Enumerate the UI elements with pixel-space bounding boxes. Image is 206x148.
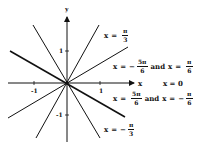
denominator: 3 [129,130,133,137]
label-eq: = [120,95,126,102]
denominator2: 6 [187,99,191,106]
label-eq: = [111,32,117,39]
tick-label-x-neg: -1 [31,87,38,94]
fraction2: π 6 [186,91,192,106]
numerator2: π [186,59,192,67]
label-5pi-over-6-and-neg-pi-over-6: x = 5π 6 and x = − π 6 [113,91,193,106]
label-sign2: − [178,95,184,102]
label-and: and [151,63,166,70]
label-eq: = [111,126,117,133]
fraction: 5π 6 [137,59,148,74]
numerator2: π [186,91,192,99]
tick-label-y-neg: -1 [56,111,63,118]
label-and: and [145,95,160,102]
label-var: x [104,32,108,39]
fraction: π 3 [122,28,128,43]
label-neg-pi-over-3: x = − π 3 [104,122,134,137]
label-var: x [113,95,117,102]
x-axis-label: x [138,80,142,87]
label-eq2: = [175,63,181,70]
label-var: x [104,126,108,133]
label-eq: = [120,63,126,70]
fraction: 5π 6 [131,91,142,106]
denominator2: 6 [187,67,191,74]
label-sign: − [120,126,126,133]
polar-diagram [0,0,206,148]
tick-label-x-pos: 1 [99,87,103,94]
label-var2: x [168,63,172,70]
label-var2: x [162,95,166,102]
origin-dot [65,81,69,85]
tick-label-y-pos: 1 [59,47,63,54]
fraction2: π 6 [186,59,192,74]
denominator: 6 [140,67,144,74]
numerator: π [122,28,128,36]
numerator: 5π [131,91,142,99]
label-var: x [113,63,117,70]
label-neg-5pi-over-6-and-pi-over-6: x = − 5π 6 and x = π 6 [113,59,193,74]
label-pi-over-3: x = π 3 [104,28,128,43]
denominator: 6 [134,99,138,106]
label-zero: x = 0 [163,80,183,87]
numerator: 5π [137,59,148,67]
numerator: π [128,122,134,130]
denominator: 3 [123,36,127,43]
label-sign: − [129,63,135,70]
label-eq2: = [169,95,175,102]
fraction: π 3 [128,122,134,137]
y-axis-label: y [65,5,69,12]
